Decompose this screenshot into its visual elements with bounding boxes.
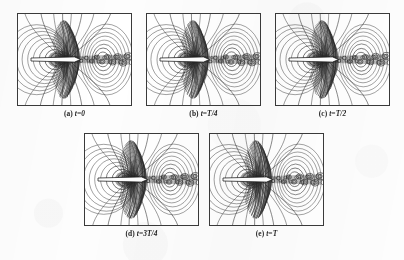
contour-plot-b: [146, 13, 261, 106]
contour-plot-e: [209, 133, 324, 226]
panel-caption-label-e: (e): [256, 229, 265, 238]
panel-caption-d: (d) t=3T/4: [84, 229, 199, 238]
panel-caption-math-e: t=T: [266, 229, 277, 238]
panel-caption-c: (c) t=T/2: [275, 109, 390, 118]
panel-caption-math-a: t=0: [75, 109, 85, 118]
panel-caption-math-c: t=T/2: [329, 109, 346, 118]
contour-panel-e: (e) t=T: [209, 133, 324, 242]
panel-caption-b: (b) t=T/4: [146, 109, 261, 118]
figure-container: (a) t=0(b) t=T/4(c) t=T/2(d) t=3T/4(e) t…: [0, 0, 404, 260]
panel-caption-label-d: (d): [125, 229, 134, 238]
panel-caption-math-b: t=T/4: [201, 109, 218, 118]
panel-caption-label-c: (c): [319, 109, 328, 118]
contour-panel-b: (b) t=T/4: [146, 13, 261, 122]
contour-plot-a: [17, 13, 132, 106]
contour-panel-a: (a) t=0: [17, 13, 132, 122]
contour-panel-c: (c) t=T/2: [275, 13, 390, 122]
contour-plot-d: [84, 133, 199, 226]
contour-panel-d: (d) t=3T/4: [84, 133, 199, 242]
panel-caption-math-d: t=3T/4: [137, 229, 158, 238]
panel-caption-label-a: (a): [64, 109, 73, 118]
panel-caption-e: (e) t=T: [209, 229, 324, 238]
panel-caption-label-b: (b): [189, 109, 198, 118]
contour-plot-c: [275, 13, 390, 106]
panel-caption-a: (a) t=0: [17, 109, 132, 118]
